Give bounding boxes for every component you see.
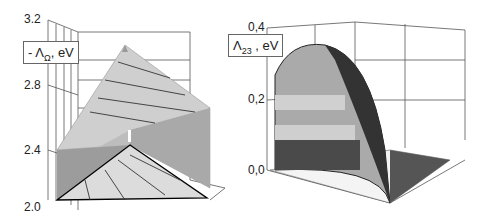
right-surface-plot: 0,4 0,2 0,0 Λ23 , eV xyxy=(240,0,481,223)
left-plot-graphic xyxy=(0,0,240,223)
z-tick-0-4: 0,4 xyxy=(248,20,265,34)
z-tick-2-8: 2.8 xyxy=(24,78,41,92)
z-axis-label: - ΛΩ, eV xyxy=(23,41,79,64)
z-tick-2-0: 2.0 xyxy=(24,200,41,214)
label-subscript: Ω xyxy=(44,53,51,63)
label-subscript: 23 xyxy=(242,46,252,56)
left-surface-plot: 3.2 2.8 2.4 2.0 - ΛΩ, eV xyxy=(0,0,240,223)
label-symbol: - Λ xyxy=(28,45,44,60)
z-tick-3-2: 3.2 xyxy=(24,12,41,26)
z-tick-0-2: 0,2 xyxy=(248,92,265,106)
label-unit: , eV xyxy=(51,45,74,60)
z-tick-0-0: 0,0 xyxy=(248,163,265,177)
label-unit: , eV xyxy=(252,38,279,53)
z-tick-2-4: 2.4 xyxy=(24,143,41,157)
z-axis-label: Λ23 , eV xyxy=(228,34,283,57)
label-symbol: Λ xyxy=(233,38,242,53)
